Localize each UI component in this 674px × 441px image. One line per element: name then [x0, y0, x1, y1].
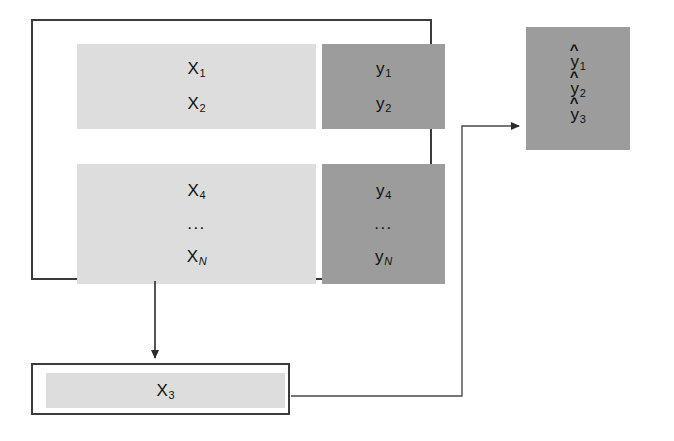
- feature-label-x1: X1: [188, 60, 206, 78]
- subscript-n: N: [199, 255, 207, 267]
- subscript-1: 1: [200, 67, 206, 79]
- subscript-4: 4: [385, 189, 391, 201]
- subscript-4: 4: [200, 189, 206, 201]
- features-block-top: X1 X2: [77, 44, 316, 129]
- subscript-2: 2: [200, 102, 206, 114]
- target-label-yn: yN: [375, 248, 392, 266]
- hat-accent-icon: ^: [570, 69, 579, 84]
- subscript-3: 3: [169, 389, 175, 401]
- hat-accent-icon: ^: [570, 95, 579, 110]
- features-block-bottom: X4 ... XN: [77, 164, 316, 284]
- subscript-1: 1: [580, 60, 586, 72]
- holdout-label-x3: X3: [157, 382, 175, 400]
- training-set-container: X1 X2 y1 y2 X4 ... XN y4 ... yN: [31, 19, 432, 280]
- target-label-y1: y1: [376, 60, 391, 78]
- subscript-2: 2: [385, 102, 391, 114]
- prediction-label-yhat3: ^y3: [570, 106, 585, 124]
- target-label-y4: y4: [376, 182, 391, 200]
- features-ellipsis: ...: [187, 215, 206, 232]
- feature-label-x4: X4: [188, 182, 206, 200]
- subscript-2: 2: [580, 87, 586, 99]
- targets-block-bottom: y4 ... yN: [322, 164, 445, 284]
- holdout-sample-box: X3: [31, 363, 290, 415]
- targets-block-top: y1 y2: [322, 44, 445, 129]
- predictions-block: ^y1 ^y2 ^y3: [526, 27, 630, 150]
- diagram-canvas: X1 X2 y1 y2 X4 ... XN y4 ... yN X3 ^y1 ^…: [0, 0, 674, 441]
- hat-accent-icon: ^: [570, 42, 579, 57]
- subscript-1: 1: [385, 67, 391, 79]
- holdout-feature-block: X3: [46, 373, 285, 408]
- subscript-n: N: [384, 255, 392, 267]
- target-label-y2: y2: [376, 95, 391, 113]
- feature-label-xn: XN: [187, 248, 207, 266]
- targets-ellipsis: ...: [374, 215, 393, 232]
- subscript-3: 3: [580, 113, 586, 125]
- feature-label-x2: X2: [188, 95, 206, 113]
